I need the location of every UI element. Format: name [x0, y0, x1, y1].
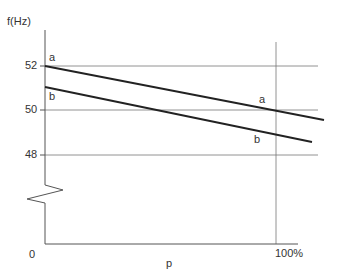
x-tick-label-100: 100%	[275, 248, 303, 259]
y-tick-label-52: 52	[25, 60, 37, 71]
series-b-end-label: b	[254, 134, 260, 145]
series-a-line	[45, 66, 324, 120]
y-tick-label-50: 50	[25, 104, 37, 115]
x-tick-label-0: 0	[29, 249, 35, 260]
series-a-end-label: a	[259, 94, 265, 105]
series-b-line	[45, 87, 312, 142]
chart-canvas	[0, 0, 337, 280]
series-a-start-label: a	[49, 52, 55, 63]
y-axis-label: f(Hz)	[7, 16, 31, 27]
y-tick-label-48: 48	[25, 149, 37, 160]
x-axis-label: p	[166, 258, 172, 269]
series-b-start-label: b	[49, 91, 55, 102]
